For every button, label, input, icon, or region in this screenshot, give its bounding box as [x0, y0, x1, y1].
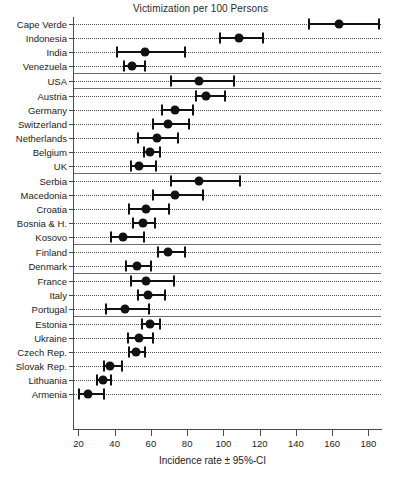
plot-group: FinlandDenmark — [74, 244, 381, 273]
data-point-marker — [84, 390, 93, 399]
y-axis-tick-label: Indonesia — [26, 33, 67, 44]
y-axis-tick — [69, 166, 74, 167]
y-axis-tick — [69, 138, 74, 139]
y-axis-tick — [69, 38, 74, 39]
y-axis-tick — [69, 152, 74, 153]
y-axis-tick — [69, 309, 74, 310]
data-point-marker — [138, 219, 147, 228]
x-axis-tick — [260, 430, 261, 436]
plot-row: Cape Verde — [74, 17, 381, 31]
ci-upper-cap — [177, 133, 179, 144]
plot-row: Estonia — [74, 317, 381, 331]
y-axis-tick — [69, 195, 74, 196]
row-gridline — [74, 252, 381, 253]
plot-row: Germany — [74, 103, 381, 117]
y-axis-tick — [69, 96, 74, 97]
row-gridline — [74, 223, 381, 224]
plot-group: SerbiaMacedoniaCroatiaBosnia & H.Kosovo — [74, 173, 381, 244]
ci-upper-cap — [202, 190, 204, 201]
data-point-marker — [98, 376, 107, 385]
ci-upper-cap — [378, 19, 380, 30]
plot-row: Italy — [74, 288, 381, 302]
row-gridline — [74, 295, 381, 296]
x-axis-label-text: Incidence rate ± 95%-CI — [159, 455, 266, 466]
confidence-interval-line — [195, 95, 226, 97]
data-point-marker — [171, 106, 180, 115]
row-gridline — [74, 124, 381, 125]
data-point-marker — [146, 320, 155, 329]
confidence-interval-line — [116, 51, 187, 53]
data-point-marker — [195, 77, 204, 86]
row-gridline — [74, 266, 381, 267]
x-axis-tick-label: 160 — [324, 438, 340, 449]
row-gridline — [74, 380, 381, 381]
x-axis-tick — [151, 430, 152, 436]
y-axis-tick — [69, 24, 74, 25]
y-axis-tick-label: Estonia — [35, 319, 67, 330]
ci-lower-cap — [96, 375, 98, 386]
ci-upper-cap — [148, 304, 150, 315]
ci-lower-cap — [141, 319, 143, 330]
x-axis-tick — [368, 430, 369, 436]
y-axis-tick — [69, 52, 74, 53]
data-point-marker — [144, 291, 153, 300]
y-axis-tick — [69, 295, 74, 296]
ci-lower-cap — [103, 361, 105, 372]
y-axis-tick — [69, 237, 74, 238]
row-gridline — [74, 96, 381, 97]
row-gridline — [74, 281, 381, 282]
plot-row: France — [74, 274, 381, 288]
plot-group: USA — [74, 73, 381, 88]
y-axis-tick — [69, 110, 74, 111]
x-axis-tick-label: 180 — [360, 438, 376, 449]
confidence-interval-line — [110, 236, 144, 238]
data-point-marker — [106, 362, 115, 371]
y-axis-tick — [69, 209, 74, 210]
ci-upper-cap — [144, 347, 146, 358]
data-point-marker — [234, 34, 243, 43]
plot-row: Armenia — [74, 387, 381, 401]
plot-row: Finland — [74, 245, 381, 259]
data-point-marker — [142, 277, 151, 286]
y-axis-tick-label: USA — [47, 76, 67, 87]
row-gridline — [74, 338, 381, 339]
plot-row: Serbia — [74, 174, 381, 188]
y-axis-tick-label: Macedonia — [21, 190, 67, 201]
ci-upper-cap — [150, 261, 152, 272]
forest-plot: Victimization per 100 Persons Cape Verde… — [0, 0, 401, 479]
ci-upper-cap — [239, 176, 241, 187]
data-point-marker — [334, 20, 343, 29]
y-axis-tick — [69, 81, 74, 82]
data-point-marker — [135, 334, 144, 343]
y-axis-tick-label: Netherlands — [16, 133, 67, 144]
plot-row: Portugal — [74, 302, 381, 316]
plot-panel: Cape VerdeIndonesiaIndiaVenezuelaUSAAust… — [73, 17, 381, 429]
data-point-marker — [153, 134, 162, 143]
y-axis-tick-label: Portugal — [32, 304, 67, 315]
y-axis-tick-label: Lithuania — [28, 375, 67, 386]
ci-lower-cap — [170, 76, 172, 87]
plot-row: Bosnia & H. — [74, 216, 381, 230]
y-axis-tick — [69, 181, 74, 182]
data-point-marker — [171, 191, 180, 200]
x-axis-label: Incidence rate ± 95%-CI — [0, 455, 401, 466]
ci-upper-cap — [184, 47, 186, 58]
ci-upper-cap — [262, 33, 264, 44]
ci-upper-cap — [152, 333, 154, 344]
ci-lower-cap — [110, 232, 112, 243]
y-axis-tick-label: Austria — [37, 91, 67, 102]
y-axis-tick-label: Croatia — [36, 204, 67, 215]
plot-row: Macedonia — [74, 188, 381, 202]
ci-lower-cap — [308, 19, 310, 30]
row-gridline — [74, 152, 381, 153]
ci-lower-cap — [125, 261, 127, 272]
plot-row: UK — [74, 159, 381, 173]
plot-row: Lithuania — [74, 373, 381, 387]
ci-upper-cap — [103, 389, 105, 400]
plot-row: India — [74, 45, 381, 59]
y-axis-tick-label: Germany — [28, 105, 67, 116]
plot-row: Denmark — [74, 259, 381, 273]
confidence-interval-line — [130, 280, 175, 282]
y-axis-tick — [69, 124, 74, 125]
ci-upper-cap — [143, 232, 145, 243]
